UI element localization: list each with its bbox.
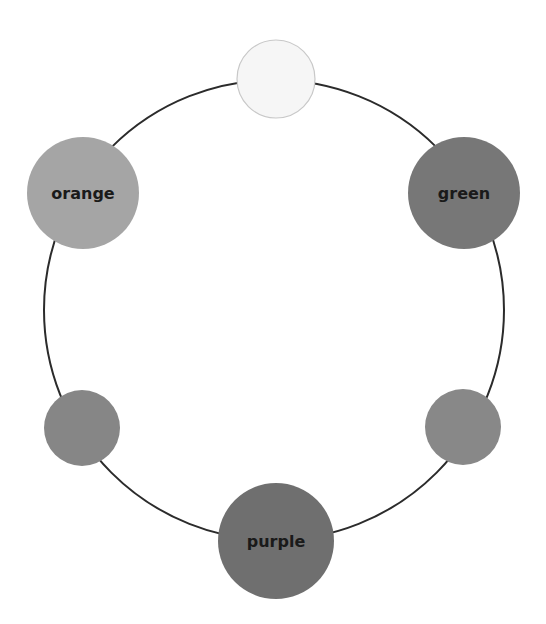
node-purple: purple <box>218 483 334 599</box>
node-green: green <box>408 137 520 249</box>
color-wheel-diagram: greenpurpleorange <box>0 0 546 624</box>
node-top <box>237 40 315 118</box>
node-circle <box>44 390 120 466</box>
node-orange: orange <box>27 137 139 249</box>
node-circle <box>237 40 315 118</box>
nodes-group: greenpurpleorange <box>27 40 520 599</box>
node-label: green <box>438 184 490 203</box>
node-label: purple <box>247 532 306 551</box>
node-label: orange <box>51 184 115 203</box>
node-bottom-right <box>425 389 501 465</box>
node-circle <box>425 389 501 465</box>
node-bottom-left <box>44 390 120 466</box>
